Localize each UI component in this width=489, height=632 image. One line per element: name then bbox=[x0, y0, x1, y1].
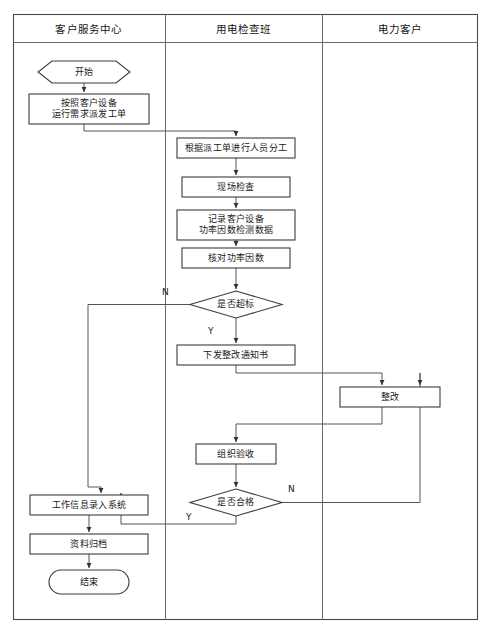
node-issue-rectification-notice[interactable]: 下发整改通知书 bbox=[177, 345, 295, 365]
edge-dispatch-to-assign bbox=[84, 124, 236, 136]
node-archive-documents[interactable]: 资料归档 bbox=[30, 534, 148, 554]
edge-label-qualified-no: N bbox=[288, 484, 295, 494]
node-end[interactable]: 结束 bbox=[49, 570, 129, 594]
node-start[interactable]: 开始 bbox=[38, 61, 130, 83]
edge-exceeds-no-to-entry bbox=[88, 305, 190, 494]
node-dispatch-work-order[interactable]: 按照客户设备 运行需求派发工单 bbox=[29, 94, 149, 124]
node-assign-personnel[interactable]: 根据派工单进行人员分工 bbox=[177, 138, 295, 158]
node-record-power-factor-data[interactable]: 记录客户设备 功率因数检测数据 bbox=[177, 210, 295, 240]
node-site-inspection[interactable]: 现场检查 bbox=[182, 177, 290, 197]
node-enter-work-info-system[interactable]: 工作信息录入系统 bbox=[30, 495, 148, 515]
edge-label-qualified-yes: Y bbox=[186, 512, 192, 522]
edge-notice-to-rectification bbox=[236, 365, 382, 385]
node-decision-qualified[interactable]: 是否合格 bbox=[190, 489, 282, 516]
lane-title-power-customer: 电力客户 bbox=[322, 14, 478, 42]
edge-label-exceeds-no: N bbox=[162, 287, 169, 297]
edge-rectification-to-acceptance bbox=[236, 407, 382, 442]
lane-title-customer-service: 客户服务中心 bbox=[13, 14, 165, 42]
node-organize-acceptance[interactable]: 组织验收 bbox=[196, 444, 276, 464]
lane-title-inspection-team: 用电检查班 bbox=[165, 14, 322, 42]
edge-label-exceeds-yes: Y bbox=[208, 326, 214, 336]
node-verify-power-factor[interactable]: 核对功率因数 bbox=[182, 248, 290, 268]
node-decision-exceeds-standard[interactable]: 是否超标 bbox=[190, 291, 282, 318]
node-rectification[interactable]: 整改 bbox=[340, 387, 440, 407]
